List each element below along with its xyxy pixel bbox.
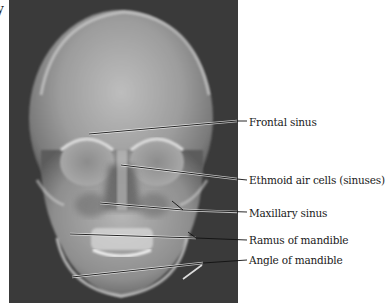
label-frontal-sinus: Frontal sinus [249, 116, 317, 128]
label-maxillary-sinus: Maxillary sinus [249, 207, 327, 219]
label-ramus-of-mandible: Ramus of mandible [249, 234, 348, 246]
skull-xray-image [9, 0, 238, 303]
clipped-title-fragment: y [0, 2, 4, 16]
skull-xray-illustration [9, 0, 238, 303]
label-angle-of-mandible: Angle of mandible [249, 254, 342, 266]
label-ethmoid-air-cells: Ethmoid air cells (sinuses) [249, 174, 385, 186]
